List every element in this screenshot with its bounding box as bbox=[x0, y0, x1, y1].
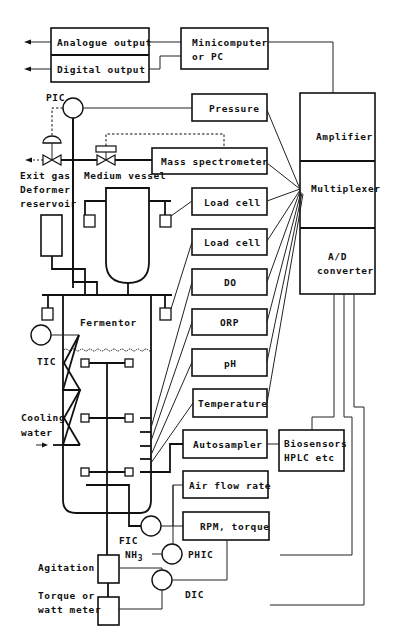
water-label: water bbox=[21, 427, 53, 438]
amplifier-label: Amplifier bbox=[316, 131, 373, 142]
medium-valve-actuator-icon bbox=[96, 146, 116, 152]
reservoir-label: reservoir bbox=[20, 198, 77, 209]
fic-circle-icon bbox=[141, 516, 161, 536]
output-block: Analogue output Digital output bbox=[24, 28, 181, 82]
ad-label: A/D bbox=[328, 251, 347, 262]
minicomputer-box: Minicomputer or PC bbox=[181, 28, 333, 93]
or-pc-label: or PC bbox=[192, 51, 224, 62]
tic-circle-icon bbox=[31, 325, 51, 345]
digital-output-label: Digital output bbox=[57, 64, 145, 75]
analogue-output-label: Analogue output bbox=[57, 37, 152, 48]
multiplexer-label: Multiplexer bbox=[311, 183, 381, 194]
torque-or-label: Torque or bbox=[38, 590, 95, 601]
biosensors-label: Biosensors bbox=[284, 438, 347, 449]
bottom-controllers: FIC NH3 PHIC Agitation Torque or watt me… bbox=[38, 485, 227, 625]
exit-gas-label: Exit gas bbox=[20, 170, 71, 181]
cooling-label: Cooling bbox=[21, 412, 65, 423]
fermentor-control-diagram: Analogue output Digital output Minicompu… bbox=[0, 0, 395, 643]
exit-gas-arrow-icon bbox=[25, 158, 32, 163]
agitation-motor-box bbox=[98, 555, 119, 583]
fermentor-label: Fermentor bbox=[80, 317, 137, 328]
analogue-arrow-icon bbox=[24, 40, 31, 45]
biosensors-box: Biosensors HPLC etc bbox=[267, 430, 347, 471]
pic-label: PIC bbox=[46, 92, 65, 103]
do-label: DO bbox=[224, 277, 237, 288]
deformer-label: Deformer bbox=[20, 184, 71, 195]
ph-label: pH bbox=[224, 358, 237, 369]
dic-label: DIC bbox=[185, 589, 204, 600]
load-cell-label-2: Load cell bbox=[204, 237, 261, 248]
rpm-torque-label: RPM, torque bbox=[200, 521, 270, 532]
watt-meter-label: watt meter bbox=[38, 604, 101, 615]
phic-circle-icon bbox=[162, 544, 182, 564]
cooling-coil: TIC Cooling water bbox=[21, 325, 80, 448]
tic-label: TIC bbox=[37, 356, 56, 367]
converter-label: converter bbox=[317, 265, 374, 276]
hplc-label: HPLC etc bbox=[284, 452, 335, 463]
fic-label: FIC bbox=[119, 535, 138, 546]
temperature-label: Temperature bbox=[198, 398, 268, 409]
pressure-label: Pressure bbox=[209, 103, 260, 114]
agitation-label: Agitation bbox=[38, 562, 95, 573]
nh3-label: NH3 bbox=[125, 549, 143, 563]
medium-vessel bbox=[84, 188, 192, 295]
medium-vessel-label: Medium vessel bbox=[84, 170, 166, 181]
dic-circle-icon bbox=[152, 570, 172, 590]
mass-spectrometer-label: Mass spectrometer bbox=[161, 156, 268, 167]
air-flow-rate-label: Air flow rate bbox=[189, 480, 271, 491]
interface-stack: Amplifier Multiplexer A/D converter bbox=[300, 93, 381, 294]
digital-arrow-icon bbox=[24, 67, 31, 72]
minicomputer-label: Minicomputer bbox=[192, 37, 268, 48]
medium-vessel-tank-icon bbox=[106, 188, 149, 283]
orp-label: ORP bbox=[220, 317, 239, 328]
autosampler-label: Autosampler bbox=[193, 439, 263, 450]
load-cell-label-1: Load cell bbox=[204, 197, 261, 208]
liquid-surface bbox=[64, 349, 152, 351]
multiplexer-fan-lines bbox=[267, 110, 303, 403]
phic-label: PHIC bbox=[188, 549, 213, 560]
pic-circle-icon bbox=[63, 98, 83, 118]
valve-actuator-icon bbox=[43, 136, 61, 143]
fermentor: Fermentor bbox=[42, 242, 193, 555]
